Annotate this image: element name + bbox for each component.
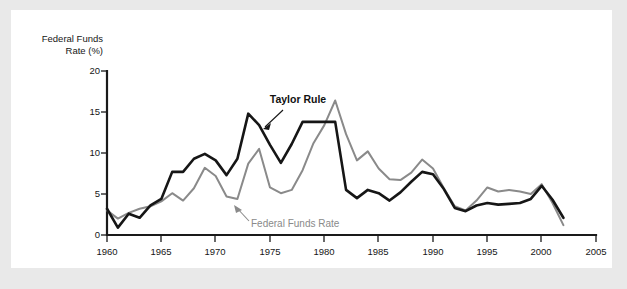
x-tick-label-1975: 1975 (259, 246, 280, 257)
chart-figure-panel: Federal Funds Rate (%) 20 15 10 5 0 1960… (11, 10, 612, 268)
y-axis-title-line1: Federal Funds (42, 33, 104, 44)
annotation-label-federal-funds-rate: Federal Funds Rate (251, 218, 340, 229)
chart-axes (107, 71, 596, 235)
x-tick-label-1960: 1960 (96, 246, 117, 257)
y-tick-label-5: 5 (95, 188, 100, 199)
y-tick-label-10: 10 (89, 147, 100, 158)
series-line-federal-funds-rate (107, 101, 563, 226)
x-tick-label-1985: 1985 (367, 246, 388, 257)
x-tick-label-1995: 1995 (476, 246, 497, 257)
annotation-arrowhead-taylor-rule (263, 123, 271, 130)
y-tick-label-20: 20 (89, 65, 100, 76)
x-tick-label-1970: 1970 (204, 246, 225, 257)
x-tick-label-1965: 1965 (150, 246, 171, 257)
annotation-leader-taylor-rule (265, 110, 283, 127)
x-tick-label-1990: 1990 (422, 246, 443, 257)
y-axis-title-line2: Rate (%) (66, 45, 103, 56)
annotation-label-taylor-rule: Taylor Rule (270, 93, 327, 105)
federal-funds-rate-line-chart: Federal Funds Rate (%) 20 15 10 5 0 1960… (11, 10, 612, 268)
y-tick-label-0: 0 (95, 229, 100, 240)
series-line-taylor-rule (107, 114, 563, 228)
x-tick-label-2000: 2000 (530, 246, 551, 257)
x-tick-label-1980: 1980 (313, 246, 334, 257)
y-tick-label-15: 15 (89, 106, 100, 117)
x-tick-label-2005: 2005 (585, 246, 606, 257)
